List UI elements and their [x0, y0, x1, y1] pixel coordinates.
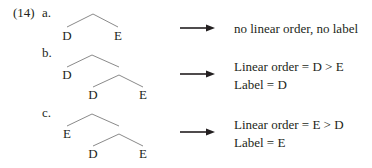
- tree-a-node-right: E: [114, 29, 122, 42]
- tree-c-sub-left-branch: [93, 134, 119, 146]
- tree-b-left-branch: [67, 55, 92, 67]
- tree-c-right-branch: [92, 114, 119, 126]
- tree-c-sub-right-branch: [119, 134, 143, 146]
- tree-b-node-left: D: [62, 68, 71, 81]
- tree-c-node-left: E: [63, 127, 71, 140]
- tree-c-left-branch: [67, 114, 92, 126]
- tree-c-node-sub-right: E: [139, 147, 147, 160]
- arrow-b-head: [206, 71, 215, 78]
- tree-b-sub-left-branch: [93, 75, 119, 87]
- result-b-line-1: Linear order = D > E: [234, 60, 344, 73]
- tree-a-node-left: D: [62, 29, 71, 42]
- result-b-line-2: Label = D: [234, 78, 287, 91]
- tree-a-left-branch: [67, 14, 93, 27]
- arrow-c-head: [206, 129, 215, 136]
- result-c-line-2: Label = E: [234, 136, 285, 149]
- tree-b-sub-right-branch: [119, 75, 143, 87]
- tree-b-right-branch: [92, 55, 119, 67]
- tree-a-right-branch: [93, 14, 118, 27]
- arrow-a-head: [206, 25, 215, 32]
- result-c-line-1: Linear order = E > D: [234, 118, 344, 131]
- tree-b-node-sub-left: D: [88, 88, 97, 101]
- tree-c-node-sub-left: D: [88, 147, 97, 160]
- result-a-line-1: no linear order, no label: [234, 22, 358, 35]
- tree-b-node-sub-right: E: [139, 88, 147, 101]
